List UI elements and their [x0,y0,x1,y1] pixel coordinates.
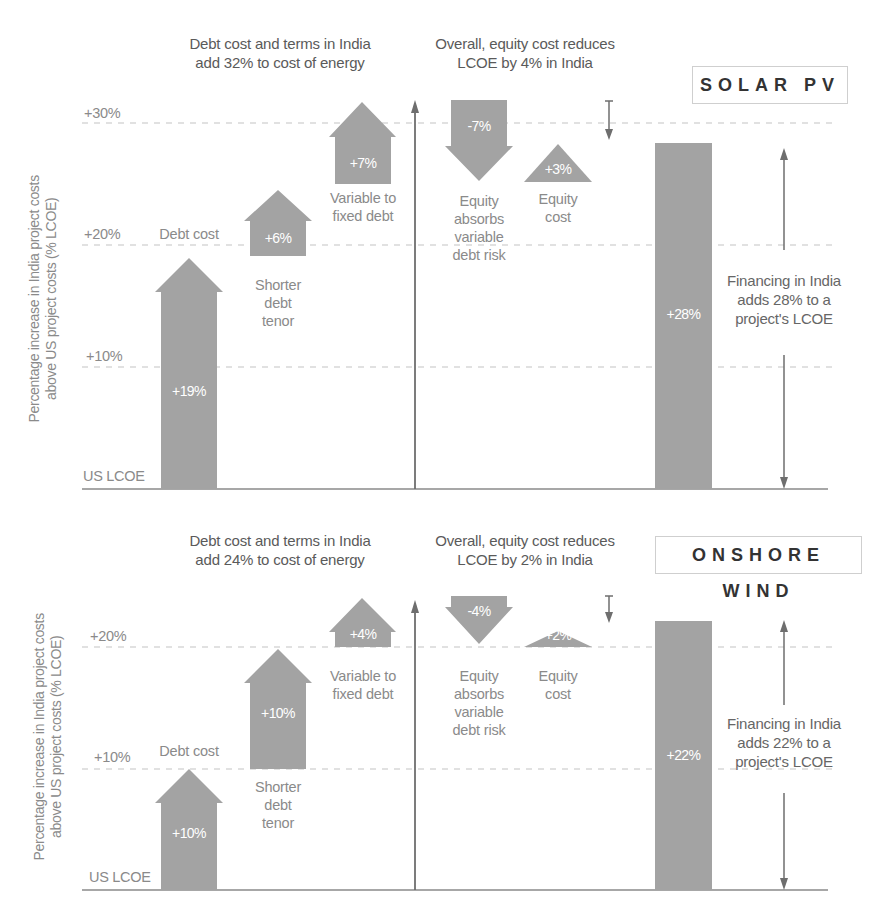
label-equity-cost: Equity cost [518,190,598,226]
chart-title-badge: ONSHORE WIND [655,536,862,574]
label-line: tenor [238,814,318,832]
label-line: cost [518,208,598,226]
down-arrowhead-icon [780,477,788,489]
note-line: project's LCOE [716,753,852,772]
label-line: Variable to [318,189,408,207]
heading-equity-line2: LCOE by 4% in India [415,54,635,73]
total-note: Financing in India adds 22% to a project… [716,715,852,771]
label-line: Shorter [238,276,318,294]
label-line: variable [438,228,520,246]
label-line: fixed debt [318,685,408,703]
down-arrowhead-icon [605,129,613,140]
value-total: +22% [655,747,712,765]
value-variable-fixed: +4% [335,626,391,644]
value-debt-cost: +19% [161,383,217,401]
label-line: debt [238,294,318,312]
note-line: adds 28% to a [716,291,852,310]
label-shorter-tenor: Shorter debt tenor [238,778,318,832]
label-equity-absorbs: Equity absorbs variable debt risk [438,192,520,265]
tick-us-lcoe: US LCOE [89,868,151,886]
label-line: tenor [238,312,318,330]
label-equity-absorbs: Equity absorbs variable debt risk [438,667,520,740]
heading-debt: Debt cost and terms in India add 32% to … [150,35,410,73]
value-shorter-tenor: +10% [250,705,306,723]
y-axis-label: Percentage increase in India project cos… [31,607,65,867]
value-total: +28% [655,306,712,324]
tick-10: +10% [94,748,130,766]
label-variable-fixed: Variable to fixed debt [318,667,408,703]
label-shorter-tenor: Shorter debt tenor [238,276,318,330]
heading-equity-line1: Overall, equity cost reduces [415,35,635,54]
arrow-debt-cost [155,258,223,489]
y-axis-label-line1: Percentage increase in India project cos… [31,607,48,867]
label-line: Equity [438,667,520,685]
arrow-equity-absorbs [445,100,513,181]
y-axis-label-line2: above US project costs (% LCOE) [43,169,60,429]
y-axis-label: Percentage increase in India project cos… [26,169,60,429]
label-line: absorbs [438,210,520,228]
tick-us-lcoe: US LCOE [83,467,145,485]
tick-20: +20% [84,225,120,243]
heading-equity-line2: LCOE by 2% in India [415,551,635,570]
label-debt-cost: Debt cost [148,742,230,760]
label-line: absorbs [438,685,520,703]
value-debt-cost: +10% [161,825,217,843]
down-arrowhead-icon [605,612,613,623]
tick-30: +30% [84,104,120,122]
label-line: Equity [518,190,598,208]
note-line: Financing in India [716,715,852,734]
note-line: project's LCOE [716,310,852,329]
label-line: debt [238,796,318,814]
label-line: Variable to [318,667,408,685]
divider-arrowhead-icon [411,100,419,113]
heading-debt-line2: add 24% to cost of energy [150,551,410,570]
y-axis-label-line2: above US project costs (% LCOE) [48,607,65,867]
tick-10: +10% [86,347,122,365]
label-equity-cost: Equity cost [518,667,598,703]
up-arrowhead-icon [780,620,788,632]
label-variable-fixed: Variable to fixed debt [318,189,408,225]
tick-20: +20% [90,627,126,645]
label-line: variable [438,703,520,721]
total-note: Financing in India adds 28% to a project… [716,272,852,328]
value-equity-absorbs: -7% [451,118,507,136]
up-arrowhead-icon [780,148,788,160]
heading-equity: Overall, equity cost reduces LCOE by 4% … [415,35,635,73]
solar-pv-panel: Percentage increase in India project cos… [0,0,887,495]
label-line: cost [518,685,598,703]
onshore-wind-panel: Percentage increase in India project cos… [0,495,887,923]
heading-debt: Debt cost and terms in India add 24% to … [150,532,410,570]
value-equity-cost: +2% [530,627,586,645]
label-debt-cost: Debt cost [148,225,230,243]
label-line: fixed debt [318,207,408,225]
heading-equity-line1: Overall, equity cost reduces [415,532,635,551]
value-equity-cost: +3% [530,161,586,179]
label-line: Shorter [238,778,318,796]
label-line: Equity [518,667,598,685]
chart-title-badge: SOLAR PV [692,66,848,104]
heading-debt-line1: Debt cost and terms in India [150,35,410,54]
value-shorter-tenor: +6% [250,230,306,248]
heading-equity: Overall, equity cost reduces LCOE by 2% … [415,532,635,570]
label-line: debt risk [438,721,520,739]
y-axis-label-line1: Percentage increase in India project cos… [26,169,43,429]
note-line: Financing in India [716,272,852,291]
label-line: debt risk [438,246,520,264]
heading-debt-line2: add 32% to cost of energy [150,54,410,73]
heading-debt-line1: Debt cost and terms in India [150,532,410,551]
note-line: adds 22% to a [716,734,852,753]
value-variable-fixed: +7% [335,155,391,173]
down-arrowhead-icon [780,878,788,890]
divider-arrowhead-icon [411,600,419,613]
label-line: Equity [438,192,520,210]
value-equity-absorbs: -4% [451,603,507,621]
